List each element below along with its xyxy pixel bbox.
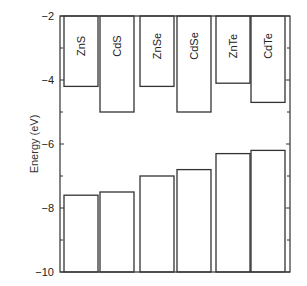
valence-bar-znte xyxy=(216,154,250,272)
y-tick-label: −10 xyxy=(35,266,54,278)
valence-bar-cds xyxy=(100,192,134,272)
valence-bar-cdse xyxy=(177,170,211,272)
y-tick-label: −8 xyxy=(41,202,54,214)
bar-label-znte: ZnTe xyxy=(227,34,239,58)
valence-band-bars xyxy=(64,150,285,272)
valence-bar-zns xyxy=(64,195,98,272)
conduction-bar-cdse xyxy=(177,16,211,112)
y-axis-label: Energy (eV) xyxy=(28,115,40,174)
y-tick-label: −6 xyxy=(41,138,54,150)
valence-bar-znse xyxy=(140,176,174,272)
bar-label-cds: CdS xyxy=(111,35,123,56)
bar-label-cdse: CdSe xyxy=(188,32,200,60)
bar-label-zns: ZnS xyxy=(75,36,87,56)
conduction-bar-cds xyxy=(100,16,134,112)
conduction-band-bars: ZnSCdSZnSeCdSeZnTeCdTe xyxy=(64,16,285,112)
bar-label-znse: ZnSe xyxy=(151,33,163,59)
band-edge-chart: ZnSCdSZnSeCdSeZnTeCdTe −2−4−6−8−10 Energ… xyxy=(0,0,307,286)
y-tick-label: −2 xyxy=(41,10,54,22)
valence-bar-cdte xyxy=(251,150,285,272)
y-tick-label: −4 xyxy=(41,74,54,86)
bar-label-cdte: CdTe xyxy=(262,33,274,59)
